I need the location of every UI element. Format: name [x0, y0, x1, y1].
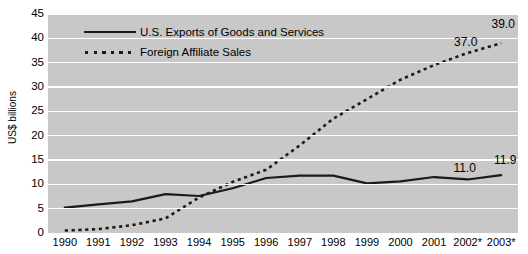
x-axis-tick-label: 1995 [220, 236, 244, 248]
y-axis-tick-label: 30 [4, 81, 44, 93]
gridline [48, 184, 518, 186]
y-axis-tick-label: 40 [4, 32, 44, 44]
gridline [48, 135, 518, 137]
legend-item-2: Foreign Affiliate Sales [82, 42, 332, 62]
y-axis-tick-label: 10 [4, 178, 44, 190]
x-axis-tick-label: 2000 [388, 236, 412, 248]
y-axis-tick-label: 20 [4, 130, 44, 142]
gridline [48, 111, 518, 113]
chart-legend: U.S. Exports of Goods and ServicesForeig… [82, 22, 332, 62]
gridline [48, 208, 518, 210]
series-line-1 [65, 175, 501, 208]
gridline [48, 62, 518, 64]
line-chart: US$ billions 051015202530354045 19901991… [0, 0, 528, 254]
x-axis-tick-label: 1999 [355, 236, 379, 248]
legend-label: Foreign Affiliate Sales [138, 46, 251, 58]
legend-label: U.S. Exports of Goods and Services [138, 26, 324, 38]
y-axis-tick-label: 0 [4, 227, 44, 239]
x-axis-tick-label: 1998 [321, 236, 345, 248]
y-axis-ticks: 051015202530354045 [0, 0, 44, 254]
data-label: 37.0 [454, 35, 477, 49]
x-axis-tick-label: 2001 [422, 236, 446, 248]
x-axis-tick-label: 1996 [254, 236, 278, 248]
data-label: 11.0 [453, 161, 475, 175]
solid-line-icon [82, 26, 138, 38]
y-axis-tick-label: 5 [4, 203, 44, 215]
gridline [48, 86, 518, 88]
legend-item-1: U.S. Exports of Goods and Services [82, 22, 332, 42]
data-label: 39.0 [492, 17, 515, 31]
x-axis-tick-label: 2003* [487, 236, 516, 248]
dotted-line-icon [82, 46, 138, 58]
gridline [48, 14, 518, 15]
data-label: 11.9 [494, 153, 516, 167]
y-axis-tick-label: 25 [4, 105, 44, 117]
x-axis-tick-label: 1991 [86, 236, 110, 248]
x-axis-tick-label: 1994 [187, 236, 211, 248]
y-axis-tick-label: 45 [4, 8, 44, 20]
gridline [48, 159, 518, 161]
x-axis-tick-label: 1997 [288, 236, 312, 248]
x-axis-tick-label: 1992 [120, 236, 144, 248]
y-axis-tick-label: 35 [4, 57, 44, 69]
x-axis-tick-label: 1990 [53, 236, 77, 248]
x-axis-tick-label: 1993 [153, 236, 177, 248]
y-axis-tick-label: 15 [4, 154, 44, 166]
x-axis-tick-label: 2002* [453, 236, 482, 248]
